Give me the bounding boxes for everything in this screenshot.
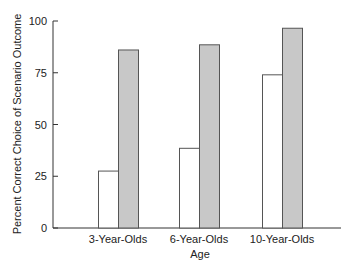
bar-white	[180, 148, 200, 228]
y-tick-label: 25	[35, 170, 47, 182]
bar-white	[263, 75, 283, 228]
y-tick-label: 75	[35, 67, 47, 79]
x-category-label: 3-Year-Olds	[89, 233, 148, 245]
bar-group	[263, 28, 303, 228]
y-tick-label: 0	[41, 222, 47, 234]
bars	[99, 28, 303, 228]
bar-gray	[200, 45, 220, 228]
x-category-label: 10-Year-Olds	[250, 233, 315, 245]
bar-group	[99, 50, 139, 228]
x-axis: 3-Year-Olds6-Year-Olds10-Year-Olds	[53, 228, 341, 245]
bar-chart: 0255075100 3-Year-Olds6-Year-Olds10-Year…	[0, 0, 352, 268]
y-tick-label: 100	[29, 15, 47, 27]
bar-gray	[119, 50, 139, 228]
bar-group	[180, 45, 220, 228]
y-axis: 0255075100	[29, 15, 58, 234]
bar-gray	[283, 28, 303, 228]
x-category-label: 6-Year-Olds	[170, 233, 229, 245]
y-tick-label: 50	[35, 119, 47, 131]
y-axis-title: Percent Correct Choice of Scenario Outco…	[11, 14, 23, 235]
bar-white	[99, 171, 119, 228]
x-axis-title: Age	[190, 248, 210, 260]
